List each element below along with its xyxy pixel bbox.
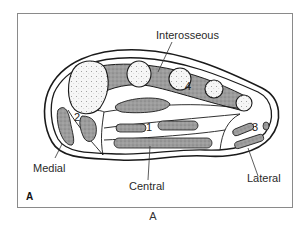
- compartment-number-medial: 2: [74, 111, 80, 123]
- fifth-metatarsal-bone: [236, 95, 252, 111]
- label-interosseous: Interosseous: [156, 29, 219, 41]
- label-medial: Medial: [33, 162, 65, 174]
- compartment-number-lateral: 3: [252, 121, 258, 133]
- figure-caption: A: [0, 210, 306, 222]
- compartment-number-central: 1: [146, 121, 152, 133]
- panel-label: A: [26, 191, 33, 202]
- lateral-muscle-small: [263, 122, 269, 130]
- central-muscle-middle-right: [158, 121, 198, 130]
- foot-cross-section-diagram: 1 2 3 4 Interosseous Medial Central Late…: [0, 0, 306, 227]
- second-metatarsal-bone: [127, 61, 151, 87]
- fourth-metatarsal-bone: [205, 80, 223, 98]
- label-central: Central: [129, 180, 164, 192]
- central-muscle-lower: [114, 138, 212, 148]
- central-muscle-middle-left: [116, 124, 146, 132]
- compartment-number-interosseous: 4: [185, 80, 191, 92]
- label-lateral: Lateral: [247, 172, 281, 184]
